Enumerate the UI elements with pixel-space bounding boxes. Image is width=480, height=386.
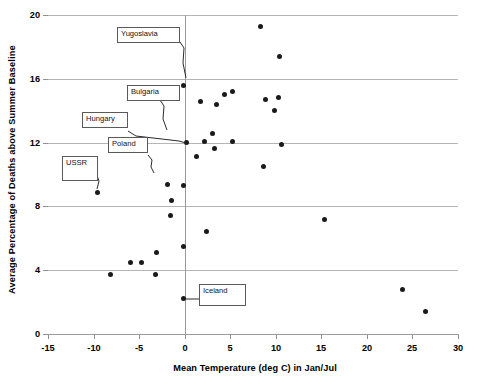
x-tick-mark--5 [139, 335, 140, 339]
x-tick-label--15: -15 [31, 343, 65, 353]
data-point [263, 97, 268, 102]
x-tick-label-20: 20 [350, 343, 384, 353]
callout-yugoslavia-label: Yugoslavia [121, 29, 158, 38]
x-tick-label-15: 15 [304, 343, 338, 353]
y-tick-label-4: 4 [14, 265, 40, 275]
callout-hungary-label: Hungary [86, 114, 115, 123]
data-point-hungary [184, 140, 189, 145]
data-point-ussr [95, 190, 100, 195]
callout-leader-lines [0, 0, 480, 386]
data-point [202, 139, 207, 144]
data-point [168, 213, 173, 218]
gridline-16 [48, 79, 458, 80]
gridline-4 [48, 270, 458, 271]
data-point [222, 92, 227, 97]
y-tick-label-8: 8 [14, 201, 40, 211]
callout-hungary[interactable]: Hungary [82, 112, 128, 128]
callout-poland-label: Poland [112, 139, 136, 148]
data-point [261, 164, 266, 169]
gridline-20 [48, 15, 458, 16]
x-tick-label-0: 0 [168, 343, 202, 353]
x-tick-mark-15 [321, 335, 322, 339]
x-tick-mark-20 [367, 335, 368, 339]
x-tick-mark-5 [230, 335, 231, 339]
data-point-yugoslavia [181, 83, 186, 88]
callout-iceland[interactable]: Iceland [199, 284, 246, 306]
data-point [230, 139, 235, 144]
callout-ussr-label: USSR [66, 158, 87, 167]
data-point [258, 24, 263, 29]
data-point-bulgaria [198, 99, 203, 104]
gridline-8 [48, 206, 458, 207]
scatter-chart: Average Percentage of Deaths above Summe… [0, 0, 480, 386]
callout-yugoslavia[interactable]: Yugoslavia [117, 27, 180, 43]
x-tick-label-30: 30 [441, 343, 475, 353]
x-tick-label-10: 10 [259, 343, 293, 353]
x-tick-mark-30 [458, 335, 459, 339]
x-tick-label--10: -10 [77, 343, 111, 353]
data-point [279, 142, 284, 147]
y-tick-label-0: 0 [14, 329, 40, 339]
zero-vertical-line [185, 15, 186, 334]
data-point [153, 272, 158, 277]
y-tick-label-20: 20 [14, 10, 40, 20]
data-point [165, 182, 170, 187]
x-tick-mark-25 [412, 335, 413, 339]
callout-ussr[interactable]: USSR [62, 156, 98, 181]
x-tick-label-5: 5 [213, 343, 247, 353]
y-axis-title: Average Percentage of Deaths above Summe… [2, 0, 22, 340]
data-point [276, 95, 281, 100]
data-point [108, 272, 113, 277]
data-point [277, 54, 282, 59]
data-point [322, 217, 327, 222]
callout-poland[interactable]: Poland [108, 137, 148, 153]
x-axis-line [48, 334, 459, 335]
data-point-poland [194, 154, 199, 159]
x-tick-mark--15 [48, 335, 49, 339]
data-point [230, 89, 235, 94]
y-tick-label-16: 16 [14, 74, 40, 84]
x-tick-label--5: -5 [122, 343, 156, 353]
callout-bulgaria[interactable]: Bulgaria [127, 85, 180, 101]
data-point [139, 260, 144, 265]
x-tick-mark-10 [276, 335, 277, 339]
data-point [400, 287, 405, 292]
data-point [423, 309, 428, 314]
data-point [154, 250, 159, 255]
x-tick-mark--10 [94, 335, 95, 339]
data-point [272, 108, 277, 113]
data-point [210, 131, 215, 136]
callout-bulgaria-label: Bulgaria [131, 87, 159, 96]
data-point [212, 146, 217, 151]
data-point [214, 102, 219, 107]
x-axis-title: Mean Temperature (deg C) in Jan/Jul [40, 363, 470, 373]
data-point [128, 260, 133, 265]
callout-iceland-label: Iceland [203, 286, 228, 295]
data-point [204, 229, 209, 234]
y-tick-label-12: 12 [14, 138, 40, 148]
x-tick-label-25: 25 [395, 343, 429, 353]
data-point [169, 198, 174, 203]
x-tick-mark-0 [185, 335, 186, 339]
